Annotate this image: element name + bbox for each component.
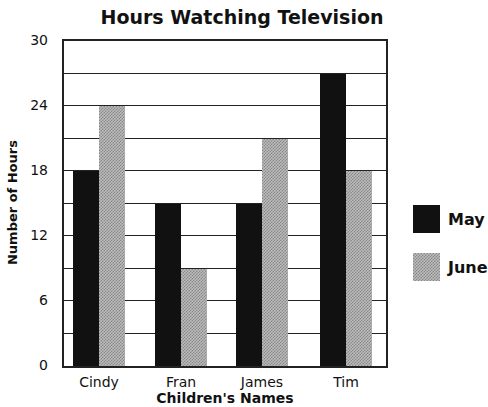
legend-item-june: June xyxy=(413,253,488,281)
bar-cindy-june xyxy=(99,106,125,366)
legend-swatch-may xyxy=(413,205,440,233)
bar-cindy-may xyxy=(73,171,99,366)
legend-item-may: May xyxy=(413,205,485,233)
y-tick-label: 0 xyxy=(0,357,48,373)
x-axis-label: Children's Names xyxy=(62,390,388,406)
bar-james-june xyxy=(262,139,288,367)
bar-fran-may xyxy=(155,204,181,367)
y-tick-label: 18 xyxy=(0,162,48,178)
plot-area xyxy=(62,39,388,368)
y-tick-label: 6 xyxy=(0,292,48,308)
bar-tim-may xyxy=(320,74,346,367)
legend-swatch-june xyxy=(413,253,440,281)
chart-title-text: Hours Watching Television xyxy=(100,6,383,28)
x-tick-label: Cindy xyxy=(59,374,139,390)
y-tick-label: 24 xyxy=(0,97,48,113)
y-tick-label: 12 xyxy=(0,227,48,243)
y-tick-label: 30 xyxy=(0,32,48,48)
x-tick-label: James xyxy=(222,374,302,390)
y-axis-label: Number of Hours xyxy=(5,133,20,273)
bar-tim-june xyxy=(346,171,372,366)
chart-title: Hours Watching Television xyxy=(0,6,484,28)
bar-james-may xyxy=(236,204,262,367)
bar-fran-june xyxy=(181,269,207,367)
x-tick-label: Fran xyxy=(141,374,221,390)
legend-label-may: May xyxy=(448,210,485,229)
x-tick-label: Tim xyxy=(306,374,386,390)
legend-label-june: June xyxy=(448,258,488,277)
